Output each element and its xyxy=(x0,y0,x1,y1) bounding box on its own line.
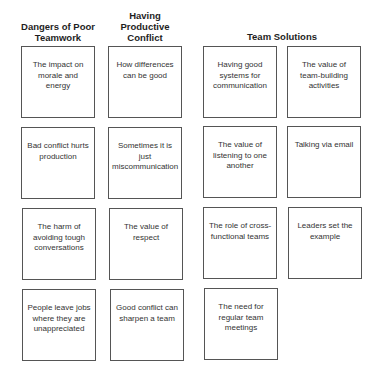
header-dangers-of-poor-teamwork: Dangers of Poor Teamwork xyxy=(14,21,102,43)
card-dangers-1: The impact on morale and energy xyxy=(21,46,95,118)
card-conflict-2: Sometimes it is just miscommunication xyxy=(108,127,182,199)
card-text: Good conflict can sharpen a team xyxy=(116,303,178,323)
card-solutions-5: The value of team-building activities xyxy=(287,46,361,118)
card-dangers-2: Bad conflict hurts production xyxy=(21,127,95,199)
card-text: The value of respect xyxy=(124,222,168,242)
card-text: The harm of avoiding tough conversations xyxy=(33,222,85,252)
card-text: Talking via email xyxy=(295,140,354,149)
card-text: Bad conflict hurts production xyxy=(27,141,88,161)
card-dangers-4: People leave jobs where they are unappre… xyxy=(22,289,96,361)
card-solutions-1: Having good systems for communication xyxy=(203,46,277,118)
card-solutions-4: The need for regular team meetings xyxy=(204,288,278,360)
card-text: People leave jobs where they are unappre… xyxy=(27,303,90,333)
card-conflict-3: The value of respect xyxy=(109,208,183,280)
card-solutions-6: Talking via email xyxy=(287,126,361,198)
card-solutions-2: The value of listening to one another xyxy=(203,126,277,198)
header-team-solutions: Team Solutions xyxy=(203,31,361,42)
card-conflict-4: Good conflict can sharpen a team xyxy=(110,289,184,361)
card-text: The value of listening to one another xyxy=(213,140,267,170)
card-solutions-7: Leaders set the example xyxy=(288,207,362,279)
card-text: The role of cross-functional teams xyxy=(209,221,271,241)
card-text: Leaders set the example xyxy=(297,221,352,241)
card-text: The value of team-building activities xyxy=(300,60,348,90)
card-text: The impact on morale and energy xyxy=(33,60,84,90)
card-solutions-3: The role of cross-functional teams xyxy=(203,207,277,279)
card-text: How differences can be good xyxy=(116,60,173,80)
card-conflict-1: How differences can be good xyxy=(108,46,182,118)
card-text: Sometimes it is just miscommunication xyxy=(112,141,178,171)
header-having-productive-conflict: Having Productive Conflict xyxy=(104,10,186,43)
card-text: The need for regular team meetings xyxy=(218,302,263,332)
card-dangers-3: The harm of avoiding tough conversations xyxy=(22,208,96,280)
card-text: Having good systems for communication xyxy=(213,60,267,90)
